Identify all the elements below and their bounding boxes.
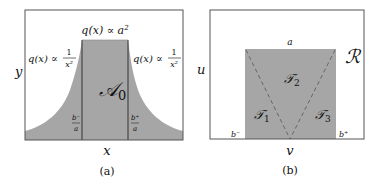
left-frac-den: x² — [65, 60, 73, 69]
left-tick-den: a — [74, 125, 78, 133]
left-tick-num: b⁻ — [72, 114, 80, 122]
caption-a: (a) — [99, 165, 114, 178]
u-axis-label: u — [197, 62, 205, 77]
x-axis-label: x — [103, 143, 111, 158]
y-axis-label: y — [14, 64, 23, 79]
right-tick-den: a — [133, 125, 137, 133]
panel-a: q(x) ∝ a2 q(x) ∝ 1 x² q(x) ∝ 1 x² y 𝒜0 b… — [14, 10, 183, 178]
region-r-label: ℛ — [345, 45, 362, 67]
right-tick-num: b⁺ — [131, 114, 139, 122]
right-frac-num: 1 — [171, 48, 176, 57]
left-frac-num: 1 — [66, 48, 71, 57]
figure: q(x) ∝ a2 q(x) ∝ 1 x² q(x) ∝ 1 x² y 𝒜0 b… — [0, 0, 383, 186]
caption-b: (b) — [282, 164, 298, 177]
right-density-label: q(x) ∝ — [133, 53, 163, 64]
b-plus-label: b⁺ — [339, 130, 348, 139]
b-minus-label: b⁻ — [231, 130, 240, 139]
top-density-label: q(x) ∝ a2 — [81, 24, 129, 37]
left-density-label: q(x) ∝ — [28, 53, 58, 64]
panel-b: a ℛ u 𝒯2 𝒯1 𝒯3 b⁻ b⁺ v (b) — [197, 10, 364, 177]
v-axis-label: v — [286, 143, 294, 158]
right-frac-den: x² — [170, 60, 178, 69]
top-edge-label: a — [287, 37, 292, 47]
region-r — [245, 49, 336, 139]
